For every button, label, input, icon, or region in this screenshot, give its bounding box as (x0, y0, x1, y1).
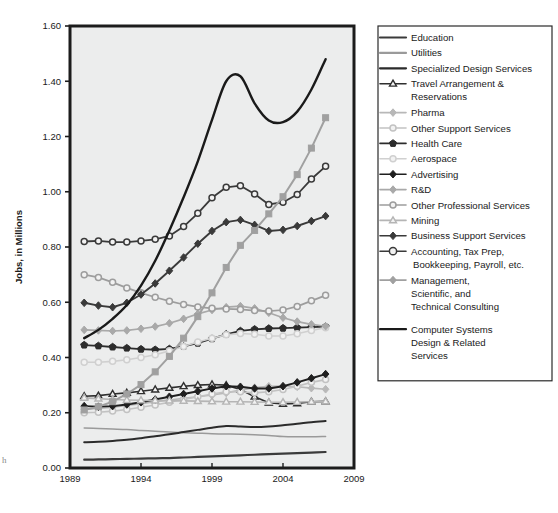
legend-label: Pharma (411, 107, 445, 118)
x-tick-label: 1989 (59, 473, 80, 484)
data-point-marker (266, 201, 272, 207)
data-point-marker (294, 172, 300, 178)
data-point-marker (389, 248, 396, 255)
data-point-marker (110, 399, 116, 405)
data-point-marker (308, 176, 314, 182)
data-point-marker (124, 285, 130, 291)
data-point-marker (152, 369, 158, 375)
data-point-marker (110, 279, 116, 285)
legend-label: Utilities (411, 47, 442, 58)
data-point-marker (209, 305, 215, 311)
data-point-marker (237, 242, 243, 248)
data-point-marker (124, 391, 130, 397)
x-tick-label: 1999 (201, 473, 222, 484)
data-point-marker (95, 238, 101, 244)
data-point-marker (181, 301, 187, 307)
data-point-marker (223, 306, 229, 312)
data-point-marker (323, 292, 329, 298)
chart-legend: EducationUtilitiesSpecialized Design Ser… (378, 26, 552, 381)
data-point-marker (209, 335, 215, 341)
legend-label: Business Support Services (411, 230, 526, 241)
data-point-marker (181, 335, 187, 341)
legend-label: Reservations (411, 91, 467, 102)
data-point-marker (223, 184, 229, 190)
data-point-marker (95, 274, 101, 280)
y-tick-label: 0.20 (43, 407, 62, 418)
legend-label: Health Care (411, 138, 462, 149)
data-point-marker (124, 357, 130, 363)
data-point-marker (181, 343, 187, 349)
y-tick-label: 1.40 (43, 76, 62, 87)
data-point-marker (95, 359, 101, 365)
data-point-marker (138, 382, 144, 388)
legend-label: Travel Arrangement & (411, 78, 505, 89)
legend-label: Design & Related (411, 337, 486, 348)
y-tick-label: 1.00 (43, 186, 62, 197)
y-tick-label: 1.60 (43, 20, 62, 31)
data-point-marker (266, 211, 272, 217)
y-tick-label: 0.60 (43, 297, 62, 308)
data-point-marker (81, 272, 87, 278)
y-tick-label: 0.40 (43, 352, 62, 363)
data-point-marker (110, 239, 116, 245)
y-tick-label: 0.80 (43, 241, 62, 252)
legend-label: Advertising (411, 169, 458, 180)
jobs-by-industry-line-chart: 0.000.200.400.600.801.001.201.401.60 198… (0, 0, 558, 513)
legend-label: Services (411, 350, 448, 361)
data-point-marker (280, 333, 286, 339)
legend-label: Accounting, Tax Prep, (411, 246, 504, 257)
legend-label: Technical Consulting (411, 301, 499, 312)
data-point-marker (237, 330, 243, 336)
y-axis-title-text: Jobs, in Millions (13, 210, 24, 284)
data-point-marker (166, 298, 172, 304)
y-axis-title: Jobs, in Millions (13, 210, 24, 284)
x-tick-label: 1994 (130, 473, 151, 484)
data-point-marker (266, 333, 272, 339)
data-point-marker (181, 224, 187, 230)
y-tick-label: 0.00 (43, 462, 62, 473)
data-point-marker (252, 191, 258, 197)
data-point-marker (209, 195, 215, 201)
legend-label: Specialized Design Services (411, 63, 532, 74)
legend-label: Other Professional Services (411, 200, 530, 211)
data-point-marker (195, 339, 201, 345)
data-point-marker (237, 306, 243, 312)
data-point-marker (294, 303, 300, 309)
data-point-marker (209, 290, 215, 296)
stray-scan-artifact: h (2, 455, 7, 465)
data-point-marker (223, 264, 229, 270)
data-point-marker (110, 358, 116, 364)
data-point-marker (323, 115, 329, 121)
data-point-marker (237, 183, 243, 189)
legend-label: Management, (411, 275, 470, 286)
data-point-marker (323, 163, 329, 169)
data-point-marker (294, 192, 300, 198)
data-point-marker (195, 210, 201, 216)
data-point-marker (81, 238, 87, 244)
legend-label: R&D (411, 184, 431, 195)
data-point-marker (195, 304, 201, 310)
data-point-marker (152, 236, 158, 242)
legend-label: Scientific, and (411, 288, 471, 299)
data-point-marker (280, 194, 286, 200)
legend-label: Aerospace (411, 153, 457, 164)
data-point-marker (294, 331, 300, 337)
legend-label: Education (411, 32, 454, 43)
legend-label: Mining (411, 215, 439, 226)
data-point-marker (390, 125, 396, 131)
x-tick-label: 2004 (272, 473, 293, 484)
data-point-marker (308, 145, 314, 151)
data-point-marker (223, 332, 229, 338)
data-point-marker (138, 238, 144, 244)
data-point-marker (252, 227, 258, 233)
x-tick-label: 2009 (343, 473, 364, 484)
data-point-marker (81, 407, 87, 413)
data-point-marker (95, 404, 101, 410)
legend-label: Other Support Services (411, 123, 511, 134)
y-tick-label: 1.20 (43, 131, 62, 142)
data-point-marker (152, 352, 158, 358)
data-point-marker (81, 359, 87, 365)
legend-label: Computer Systems (411, 324, 493, 335)
data-point-marker (390, 202, 396, 208)
data-point-marker (138, 355, 144, 361)
